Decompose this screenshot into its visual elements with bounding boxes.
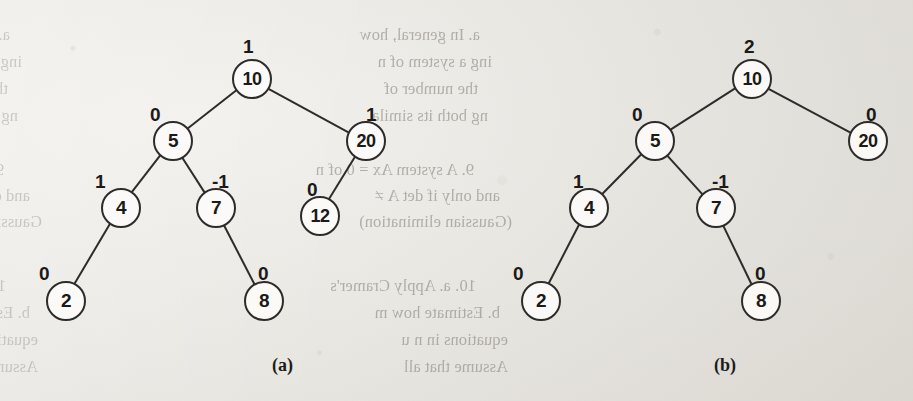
tree-edge [182, 157, 206, 193]
show-through-text-line: equations in n u [401, 330, 508, 350]
tree-node: 10 [732, 59, 772, 99]
balance-factor-label: 0 [755, 263, 766, 285]
show-through-text-line: b. Estimate how m [375, 303, 500, 323]
tree-node: 8 [741, 281, 781, 321]
tree-edge [268, 88, 350, 134]
show-through-text-line: 9. A system Ax = 0 of n linear equations… [0, 160, 4, 180]
show-through-text-line: and only if det A ≠ [375, 186, 500, 206]
tree-edge [131, 155, 161, 193]
tree-node: 4 [101, 188, 141, 228]
tree-edge [601, 153, 642, 194]
tree-node: 5 [153, 121, 193, 161]
show-through-text-line: ng both its simultaneous and back-substi… [0, 106, 18, 126]
tree-node: 5 [635, 121, 675, 161]
show-through-text-line: equations in n unknowns by Cramer's rule… [0, 330, 38, 350]
tree-node: 20 [346, 121, 386, 161]
tree-node: 7 [196, 188, 236, 228]
show-through-text-line: ng both its simila [372, 106, 488, 126]
tree-node: 2 [46, 281, 86, 321]
tree-edge [328, 156, 356, 200]
balance-factor-label: 0 [866, 104, 877, 126]
balance-factor-label: -1 [212, 171, 229, 193]
tree-edge [670, 88, 736, 131]
balance-factor-label: 2 [744, 36, 755, 58]
show-through-text-line: Assume that all the determinants in Cram… [0, 357, 38, 377]
show-through-text-line: (Gaussian elimination) [359, 212, 512, 232]
figure-caption-b: (b) [714, 355, 736, 376]
balance-factor-label: -1 [712, 171, 729, 193]
balance-factor-label: 0 [258, 263, 269, 285]
show-through-text-line: b. Estimate how many times longer it wil… [0, 303, 30, 323]
show-through-text-line: a. In general, how [360, 25, 480, 45]
tree-edge [666, 155, 703, 195]
tree-node: 8 [244, 281, 284, 321]
show-through-text-line: a. In general, how many multiplications … [0, 25, 10, 45]
show-through-text-line: 10. a. Apply Cramer's rule to solve the … [0, 276, 6, 296]
tree-edge [722, 225, 752, 285]
show-through-text-line: Assume that all [404, 357, 508, 377]
show-through-text-line: Gaussian elimination in a system [0, 212, 42, 232]
balance-factor-label: 1 [366, 104, 377, 126]
tree-node: 7 [696, 188, 736, 228]
show-through-text-line: 9. A system Ax = 0 of n [316, 160, 474, 180]
show-through-text-line: the number of [384, 79, 478, 99]
tree-edge [187, 89, 237, 129]
tree-edge [74, 223, 111, 284]
figure-caption-a: (a) [272, 355, 293, 376]
tree-node: 2 [521, 281, 561, 321]
show-through-text-line: 10. a. Apply Cramer's [330, 276, 476, 296]
tree-node: 20 [848, 121, 888, 161]
balance-factor-label: 0 [39, 263, 50, 285]
show-through-text-line: ing a system of n [378, 52, 492, 72]
balance-factor-label: 0 [150, 104, 161, 126]
balance-factor-label: 0 [307, 179, 318, 201]
tree-edge [768, 88, 851, 134]
tree-node: 4 [569, 188, 609, 228]
tree-edge [548, 224, 580, 284]
show-through-text-line: the number of multiplications made by th… [0, 79, 8, 99]
show-through-text-line: and only if det A ≠ 0. Is it possible to… [0, 186, 30, 206]
tree-node: 12 [300, 196, 340, 236]
scanned-page: a. In general, how many multiplications … [0, 0, 913, 401]
tree-node: 10 [232, 59, 272, 99]
show-through-text-line: ing a system of n equations in n unknown… [0, 52, 22, 72]
balance-factor-label: 0 [632, 104, 643, 126]
tree-edge [223, 225, 255, 285]
balance-factor-label: 1 [243, 36, 254, 58]
balance-factor-label: 1 [95, 171, 106, 193]
balance-factor-label: 1 [573, 171, 584, 193]
balance-factor-label: 0 [513, 263, 524, 285]
